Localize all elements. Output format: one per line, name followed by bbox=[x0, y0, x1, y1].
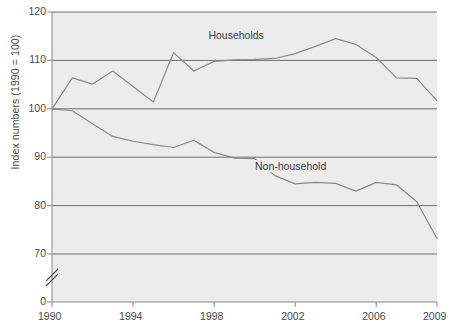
y-axis-title: Index numbers (1990 = 100) bbox=[9, 2, 21, 202]
x-tick-label: 1994 bbox=[119, 311, 142, 322]
series-paths-group bbox=[52, 39, 437, 239]
x-tick-label: 1990 bbox=[38, 311, 61, 322]
x-tick-label: 2002 bbox=[281, 311, 304, 322]
x-tick-label: 2006 bbox=[362, 311, 385, 322]
y-tick-marks-group bbox=[47, 12, 52, 302]
y-tick-label: 70 bbox=[2, 248, 46, 259]
series-line-households bbox=[52, 39, 437, 109]
chart-root: 0708090100110120 19901994199820022006200… bbox=[0, 0, 453, 333]
non-household-label: Non-household bbox=[253, 160, 328, 172]
x-tick-marks-group bbox=[52, 302, 437, 307]
gridlines-group bbox=[52, 12, 437, 254]
chart-svg bbox=[0, 0, 453, 333]
y-tick-label: 0 bbox=[2, 296, 46, 307]
x-tick-label: 1998 bbox=[200, 311, 223, 322]
households-label: Households bbox=[206, 29, 265, 41]
x-tick-label: 2009 bbox=[423, 311, 446, 322]
series-line-non-household bbox=[52, 109, 437, 239]
y-tick-labels: 0708090100110120 bbox=[0, 0, 46, 333]
